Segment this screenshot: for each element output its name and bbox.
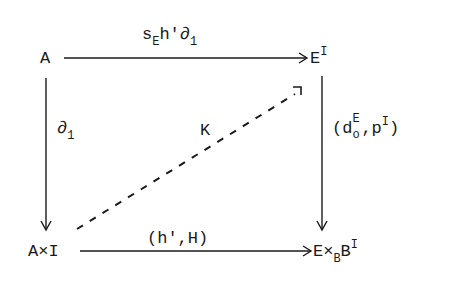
label-right-d-scripts: Eo [352,123,361,133]
node-e-sup: I [320,45,327,59]
label-k: K [200,121,210,140]
label-right-d: d [342,119,352,138]
label-d: ∂ [180,25,190,44]
label-right-p-sup: I [382,115,389,129]
label-right-d-sub: o [352,129,359,141]
label-right-arrow: (dEo,pI) [332,120,399,137]
node-ex-base: E× [313,242,333,261]
label-bottom-text: (h',H) [147,229,208,248]
node-top-left: A [40,50,50,67]
node-b-base: B [341,242,351,261]
label-right-open: ( [332,119,342,138]
label-top-arrow: sEh'∂1 [142,26,197,43]
label-diagonal: K [200,122,210,139]
label-s-sub: E [152,35,159,49]
arrow-left [41,78,51,230]
node-a-label: A [40,49,50,68]
label-s: s [142,25,152,44]
node-bottom-left: A×I [28,243,59,260]
label-h: h' [159,25,179,44]
arrow-diagonal-dashed [77,87,301,229]
label-right-close: ) [389,119,399,138]
arrow-top [64,53,307,63]
node-top-right: EI [310,50,327,67]
label-bottom-arrow: (h',H) [147,230,208,247]
label-left-arrow: ∂1 [57,120,74,137]
label-right-p: p [372,119,382,138]
label-right-d-sup: E [352,113,359,125]
node-ex-sub: B [333,252,340,266]
label-left-d: ∂ [57,119,67,138]
node-e-base: E [310,49,320,68]
label-left-d-sub: 1 [67,129,74,143]
node-axi-label: A×I [28,242,59,261]
diagram-arrows [0,0,450,293]
arrow-right [317,76,327,230]
node-bottom-right: E×BBI [313,243,358,260]
node-b-sup: I [351,238,358,252]
label-d-sub: 1 [190,35,197,49]
label-right-comma: , [361,119,371,138]
